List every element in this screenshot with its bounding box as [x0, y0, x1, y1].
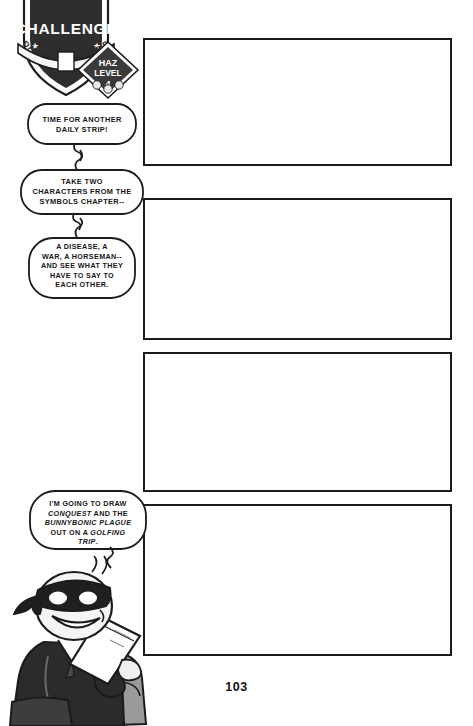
skull-icon-2 — [104, 85, 112, 93]
hand — [118, 660, 141, 681]
eye-mask — [36, 580, 110, 611]
symbol-square-icon — [58, 52, 74, 71]
comic-panel-3 — [143, 352, 452, 492]
masked-cartoonist-character — [0, 556, 174, 726]
eye-right — [79, 592, 97, 605]
bubble-shape — [21, 170, 143, 214]
haz-label-2: LEVEL — [94, 68, 121, 78]
comic-panel-2 — [143, 198, 452, 340]
skull-icon-3 — [115, 81, 123, 89]
eye-left — [49, 592, 67, 605]
speech-bubble-1: TIME FOR ANOTHERDAILY STRIP! — [26, 102, 138, 150]
bubble-shape — [28, 104, 136, 144]
challenge-badge: CHALLENGE ★ ★ DAILY SYMBOL STRIP HAZ LEV… — [16, 0, 138, 100]
speech-bubble-2: TAKE TWOCHARACTERS FROM THESYMBOLS CHAPT… — [19, 166, 145, 218]
comic-panel-4 — [143, 504, 452, 656]
badge-title: CHALLENGE — [15, 20, 118, 37]
legs — [10, 697, 72, 726]
comic-panel-1 — [143, 38, 452, 166]
speech-bubble-4: I'M GOING TO DRAWCONQUEST AND THEBUNNYBO… — [28, 489, 148, 557]
skull-icon-1 — [93, 81, 101, 89]
hair-wisp-icon — [92, 556, 107, 574]
haz-label-1: HAZ — [99, 58, 118, 68]
bubble-shape — [29, 238, 135, 298]
page-number: 103 — [0, 680, 473, 694]
speech-bubble-3: A DISEASE, AWAR, A HORSEMAN--AND SEE WHA… — [27, 232, 137, 300]
mask-knot — [14, 596, 42, 614]
bubble-shape — [30, 491, 146, 549]
